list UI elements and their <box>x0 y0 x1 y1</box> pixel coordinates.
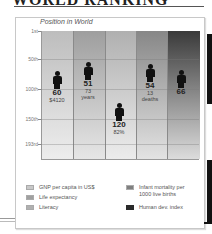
y-tick-label: 193rd <box>16 141 38 147</box>
title-divider <box>14 6 204 7</box>
page-edge-bar <box>207 34 212 104</box>
page-title: WORLD RANKING <box>12 0 169 9</box>
rank-value: 54 <box>137 82 163 90</box>
rank-value: 60 <box>44 89 70 97</box>
divider <box>0 221 16 222</box>
y-tick-label: 100th <box>16 86 38 92</box>
legend-label: Life expectancy <box>39 194 77 201</box>
legend-swatch <box>126 185 134 190</box>
legend-swatch <box>26 195 34 200</box>
legend-label: GNP per capita in US$ <box>39 184 95 191</box>
page-edge-bar <box>207 160 212 224</box>
rank-value: 51 <box>75 80 101 88</box>
person-icon <box>53 71 62 89</box>
rank-marker-life-expectancy: 51 73 years <box>75 62 101 100</box>
rank-marker-human-dev-index: 66 <box>168 70 194 96</box>
stat-unit: years <box>75 94 101 100</box>
column-literacy <box>106 31 137 159</box>
gridline <box>41 144 199 145</box>
y-tick-label: 50th <box>16 56 38 62</box>
rank-marker-literacy: 120 82% <box>106 103 132 135</box>
person-icon <box>115 103 124 121</box>
legend-swatch <box>26 205 34 210</box>
legend-swatch <box>126 205 134 210</box>
person-icon <box>146 64 155 82</box>
rank-value: 66 <box>168 88 194 96</box>
y-tick-label: 1st <box>16 28 38 34</box>
stat-value: $4120 <box>44 97 70 103</box>
legend-label: Infant mortality per1000 live births <box>139 184 185 197</box>
y-tick-label: 150th <box>16 116 38 122</box>
rank-marker-gnp: 60 $4120 <box>44 71 70 103</box>
rank-marker-infant-mortality: 54 13 deaths <box>137 64 163 102</box>
stat-value: 82% <box>106 129 132 135</box>
legend-swatch <box>26 185 34 190</box>
stat-unit: deaths <box>137 96 163 102</box>
legend-label: Literacy <box>39 204 58 211</box>
divider <box>0 218 16 219</box>
x-axis <box>41 159 199 160</box>
gridline <box>41 59 199 60</box>
person-icon <box>177 70 186 88</box>
page-edge-bar <box>204 222 212 224</box>
legend-label: Human dev. index <box>139 204 183 211</box>
chart-title: Position in World <box>40 18 93 25</box>
rank-value: 120 <box>106 121 132 129</box>
person-icon <box>84 62 93 80</box>
